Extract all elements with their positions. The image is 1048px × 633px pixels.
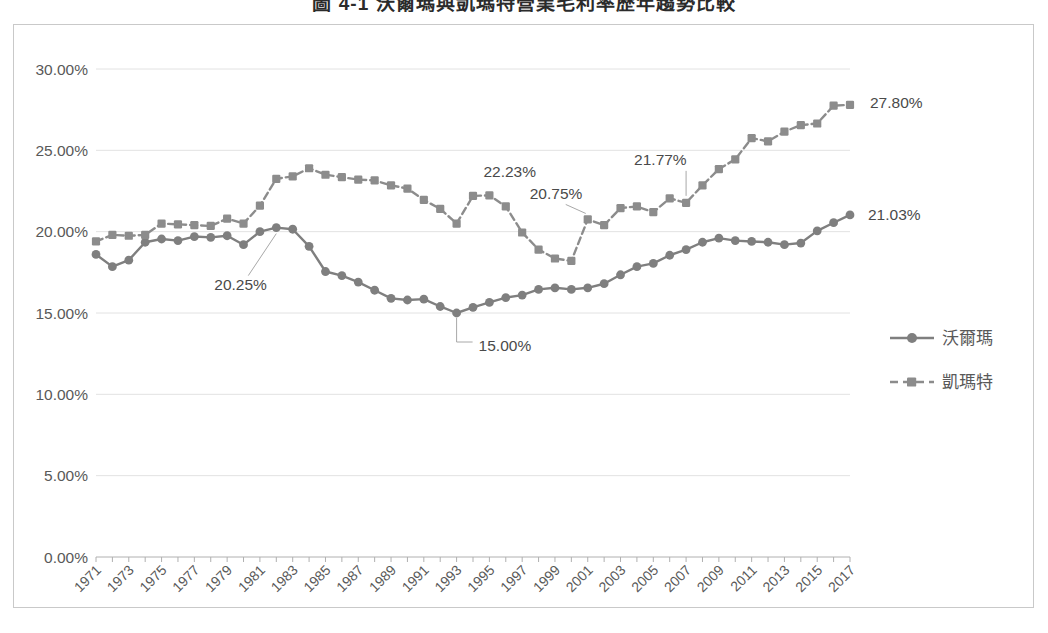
data-point-marker — [305, 242, 314, 251]
data-point-marker — [780, 128, 788, 136]
x-axis-tick-label: 2017 — [825, 562, 858, 595]
data-point-marker — [272, 223, 281, 232]
x-axis-tick-label: 1995 — [464, 562, 497, 595]
data-point-marker — [190, 232, 199, 241]
data-point-marker — [649, 259, 658, 268]
data-point-marker — [846, 211, 855, 220]
data-point-marker — [715, 165, 723, 173]
x-axis-tick-label: 2001 — [563, 562, 596, 595]
data-point-marker — [354, 176, 362, 184]
data-point-marker — [846, 101, 854, 109]
data-point-marker — [682, 199, 690, 207]
x-axis-tick-label: 1981 — [235, 562, 268, 595]
data-point-marker — [764, 238, 773, 247]
data-point-marker — [534, 245, 542, 253]
x-axis-tick-label: 2009 — [694, 562, 727, 595]
data-point-marker — [174, 220, 182, 228]
y-axis-tick-label: 25.00% — [35, 142, 88, 159]
data-point-marker — [748, 134, 756, 142]
y-axis-tick-label: 20.00% — [35, 223, 88, 240]
x-axis-tick-label: 2015 — [792, 562, 825, 595]
data-point-marker — [190, 221, 198, 229]
data-point-marker — [534, 285, 543, 294]
x-axis-tick-label: 1989 — [366, 562, 399, 595]
data-point-marker — [207, 222, 215, 230]
data-point-marker — [584, 215, 592, 223]
x-axis-tick-label: 1991 — [399, 562, 432, 595]
data-point-label: 22.23% — [483, 163, 536, 180]
data-point-marker — [518, 291, 527, 300]
y-axis-tick-label: 15.00% — [35, 305, 88, 322]
data-point-marker — [780, 240, 789, 249]
legend-marker-square — [907, 377, 916, 386]
data-point-marker — [256, 227, 265, 236]
data-point-marker — [453, 219, 461, 227]
data-point-marker — [797, 121, 805, 129]
data-point-marker — [633, 202, 641, 210]
data-point-marker — [223, 215, 231, 223]
data-point-marker — [354, 278, 363, 287]
data-point-label: 20.25% — [214, 276, 267, 293]
data-point-marker — [485, 298, 494, 307]
annotation-leader-line — [457, 318, 473, 342]
y-axis-tick-label: 5.00% — [44, 467, 88, 484]
data-point-marker — [108, 231, 116, 239]
chart-frame: 0.00%5.00%10.00%15.00%20.00%25.00%30.00%… — [13, 24, 1034, 608]
x-axis-tick-label: 1979 — [202, 562, 235, 595]
x-axis-tick-label: 2005 — [628, 562, 661, 595]
data-point-marker — [419, 295, 428, 304]
data-point-marker — [485, 191, 493, 199]
data-point-marker — [157, 219, 165, 227]
data-point-marker — [92, 250, 101, 259]
y-axis-tick-label: 0.00% — [44, 549, 88, 566]
data-point-marker — [256, 202, 264, 210]
x-axis-tick-label: 2011 — [727, 562, 760, 595]
data-point-marker — [452, 309, 461, 318]
data-point-marker — [370, 286, 379, 295]
data-point-marker — [206, 233, 215, 242]
x-axis-tick-label: 1997 — [497, 562, 530, 595]
x-axis-tick-label: 2007 — [661, 562, 694, 595]
data-point-marker — [600, 221, 608, 229]
data-point-marker — [567, 285, 576, 294]
x-axis-tick-label: 1993 — [431, 562, 464, 595]
data-point-marker — [731, 155, 739, 163]
data-point-marker — [321, 267, 330, 276]
data-point-marker — [829, 218, 838, 227]
data-point-marker — [501, 293, 510, 302]
data-point-label: 15.00% — [479, 337, 532, 354]
data-point-marker — [92, 237, 100, 245]
data-point-marker — [420, 196, 428, 204]
data-point-marker — [616, 204, 624, 212]
data-point-marker — [502, 202, 510, 210]
legend-label[interactable]: 凱瑪特 — [942, 373, 993, 392]
data-point-marker — [698, 238, 707, 247]
data-point-marker — [469, 303, 478, 312]
data-point-marker — [583, 283, 592, 292]
data-point-marker — [157, 235, 166, 244]
data-point-marker — [125, 232, 133, 240]
data-point-marker — [796, 239, 805, 248]
data-point-marker — [813, 226, 822, 235]
data-point-marker — [174, 236, 183, 245]
data-point-marker — [567, 257, 575, 265]
data-point-marker — [518, 228, 526, 236]
data-point-marker — [436, 205, 444, 213]
annotation-leader-line — [566, 204, 586, 213]
y-axis-tick-label: 30.00% — [35, 61, 88, 78]
data-point-marker — [305, 164, 313, 172]
legend-label[interactable]: 沃爾瑪 — [942, 329, 993, 348]
data-point-label: 27.80% — [870, 94, 923, 111]
data-point-marker — [403, 296, 412, 305]
x-axis-tick-label: 1999 — [530, 562, 563, 595]
data-point-marker — [747, 237, 756, 246]
x-axis-tick-label: 2003 — [595, 562, 628, 595]
data-point-marker — [141, 231, 149, 239]
data-point-marker — [469, 192, 477, 200]
data-point-marker — [731, 236, 740, 245]
data-point-marker — [665, 251, 674, 260]
annotation-leader-line — [248, 234, 276, 276]
data-point-marker — [223, 231, 232, 240]
x-axis-tick-label: 1971 — [71, 562, 104, 595]
data-point-label: 20.75% — [530, 185, 583, 202]
